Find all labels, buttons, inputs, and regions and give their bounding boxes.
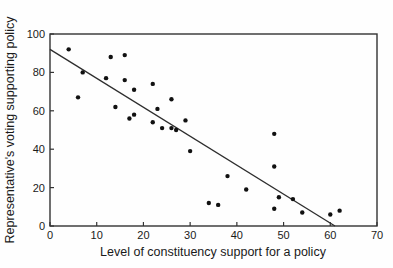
- data-point: [123, 78, 127, 82]
- x-tick-label: 60: [324, 229, 336, 241]
- data-point: [188, 149, 192, 153]
- data-point: [169, 97, 173, 101]
- axis-ticks: [50, 34, 377, 226]
- data-point: [272, 207, 276, 211]
- scatter-chart: 010203040506070020406080100 Level of con…: [0, 0, 393, 268]
- data-points: [66, 47, 341, 217]
- y-tick-label: 100: [27, 28, 45, 40]
- data-point: [328, 212, 332, 216]
- data-point: [76, 95, 80, 99]
- data-point: [155, 107, 159, 111]
- data-point: [300, 210, 304, 214]
- data-point: [272, 132, 276, 136]
- data-point: [216, 203, 220, 207]
- y-tick-label: 0: [39, 220, 45, 232]
- y-tick-label: 80: [33, 66, 45, 78]
- data-point: [104, 76, 108, 80]
- axis-tick-labels: 010203040506070020406080100: [27, 28, 383, 241]
- data-point: [183, 118, 187, 122]
- x-tick-label: 10: [91, 229, 103, 241]
- data-point: [151, 120, 155, 124]
- x-axis-title: Level of constituency support for a poli…: [100, 245, 327, 259]
- data-point: [123, 53, 127, 57]
- data-point: [132, 112, 136, 116]
- data-point: [160, 126, 164, 130]
- data-point: [225, 174, 229, 178]
- data-point: [113, 105, 117, 109]
- data-point: [207, 201, 211, 205]
- data-point: [66, 47, 70, 51]
- x-tick-label: 50: [277, 229, 289, 241]
- data-point: [244, 187, 248, 191]
- data-point: [127, 116, 131, 120]
- data-point: [132, 87, 136, 91]
- y-axis-title: Representative's voting supporting polic…: [3, 16, 17, 244]
- y-tick-label: 60: [33, 105, 45, 117]
- data-point: [272, 164, 276, 168]
- plot-frame: [50, 34, 377, 226]
- scatter-figure: 010203040506070020406080100 Level of con…: [0, 0, 393, 268]
- data-point: [291, 197, 295, 201]
- data-point: [151, 82, 155, 86]
- data-point: [109, 55, 113, 59]
- data-point: [337, 208, 341, 212]
- x-tick-label: 30: [184, 229, 196, 241]
- y-tick-label: 40: [33, 143, 45, 155]
- data-point: [81, 70, 85, 74]
- data-point: [169, 126, 173, 130]
- data-point: [174, 128, 178, 132]
- x-tick-label: 40: [231, 229, 243, 241]
- x-tick-label: 0: [47, 229, 53, 241]
- x-tick-label: 70: [371, 229, 383, 241]
- y-tick-label: 20: [33, 182, 45, 194]
- x-tick-label: 20: [137, 229, 149, 241]
- data-point: [277, 195, 281, 199]
